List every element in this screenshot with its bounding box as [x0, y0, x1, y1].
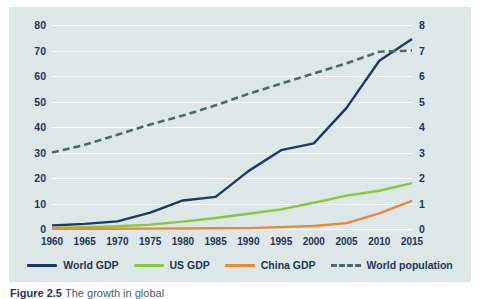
y-axis-left-tick-label: 70 [34, 45, 46, 57]
x-axis-tick-label: 1970 [106, 236, 128, 247]
legend-item-world-gdp[interactable]: World GDP [27, 259, 118, 271]
x-axis-tick-label: 2010 [368, 236, 390, 247]
y-axis-right-tick-label: 0 [419, 223, 425, 235]
legend-swatch-solid [27, 264, 57, 267]
y-axis-left-tick-label: 40 [34, 121, 46, 133]
x-axis-tick-label: 1975 [139, 236, 161, 247]
legend-item-us-gdp[interactable]: US GDP [134, 259, 210, 271]
x-axis-tick-label: 2005 [335, 236, 357, 247]
caption-text: The growth in global [65, 287, 164, 299]
x-axis-tick-label: 1985 [205, 236, 227, 247]
x-axis-tick-label: 1965 [74, 236, 96, 247]
legend-label: China GDP [261, 259, 316, 271]
legend-item-world-population[interactable]: World population [331, 259, 453, 271]
legend-label: US GDP [170, 259, 210, 271]
y-axis-right-tick-label: 7 [419, 45, 425, 57]
figure-caption: Figure 2.5 The growth in global [10, 287, 164, 299]
x-axis-tick-label: 1960 [41, 236, 63, 247]
y-axis-left-tick-label: 80 [34, 19, 46, 31]
plot-area: 01020304050607080 012345678 196019651970… [52, 25, 412, 229]
x-axis-tick-label: 2015 [401, 236, 423, 247]
y-axis-left-tick-label: 60 [34, 70, 46, 82]
legend-swatch-solid [134, 264, 164, 267]
x-axis-tick-label: 1995 [270, 236, 292, 247]
series-line-world-gdp [52, 39, 412, 225]
chart-panel: 01020304050607080 012345678 196019651970… [9, 7, 471, 282]
legend-swatch-dashed [331, 264, 361, 267]
y-axis-right-tick-label: 2 [419, 172, 425, 184]
y-axis-left-tick-label: 30 [34, 147, 46, 159]
y-axis-left-tick-label: 10 [34, 198, 46, 210]
y-axis-right-tick-label: 5 [419, 96, 425, 108]
y-axis-left-tick-label: 50 [34, 96, 46, 108]
y-axis-right-tick-label: 1 [419, 198, 425, 210]
legend-label: World population [367, 259, 453, 271]
x-axis-tick-label: 1980 [172, 236, 194, 247]
chart-legend: World GDPUS GDPChina GDPWorld population [9, 259, 471, 271]
legend-swatch-solid [225, 264, 255, 267]
series-line-world-population [52, 51, 412, 153]
y-axis-right-tick-label: 3 [419, 147, 425, 159]
y-axis-right-tick-label: 8 [419, 19, 425, 31]
x-axis-tick-label: 2000 [303, 236, 325, 247]
y-axis-left-tick-label: 20 [34, 172, 46, 184]
legend-label: World GDP [63, 259, 118, 271]
y-axis-left-tick-label: 0 [40, 223, 46, 235]
series-line-us-gdp [52, 183, 412, 228]
x-axis-tick-label: 1990 [237, 236, 259, 247]
caption-label: Figure 2.5 [10, 287, 62, 299]
series-lines [52, 25, 412, 229]
y-axis-right-tick-label: 4 [419, 121, 425, 133]
legend-item-china-gdp[interactable]: China GDP [225, 259, 316, 271]
y-axis-right-tick-label: 6 [419, 70, 425, 82]
